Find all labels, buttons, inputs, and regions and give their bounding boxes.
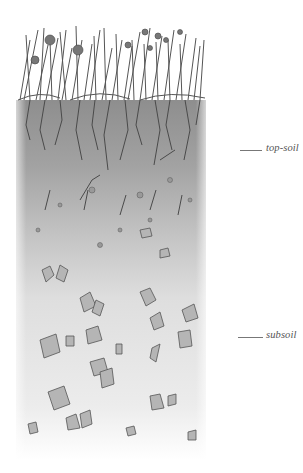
soil-profile-illustration xyxy=(0,0,303,473)
topsoil-label: top-soil xyxy=(266,142,299,153)
topsoil-leader-line xyxy=(240,150,262,151)
soil-body xyxy=(10,100,212,470)
subsoil-label: subsoil xyxy=(266,329,296,340)
subsoil-leader-line xyxy=(238,337,263,338)
